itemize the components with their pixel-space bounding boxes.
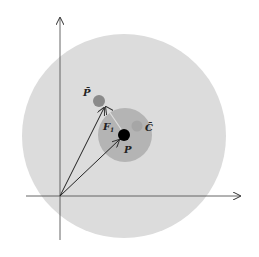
p-bar-label: P̄ bbox=[82, 87, 91, 98]
vector-diagram: P̄ C̄ P F1 bbox=[0, 0, 259, 257]
c-bar-point bbox=[132, 121, 143, 132]
c-bar-label: C̄ bbox=[145, 122, 153, 133]
p-label: P bbox=[123, 144, 132, 155]
p-bar-point bbox=[93, 95, 105, 107]
p-point bbox=[118, 129, 130, 141]
diagram-canvas: P̄ C̄ P F1 bbox=[0, 0, 259, 257]
